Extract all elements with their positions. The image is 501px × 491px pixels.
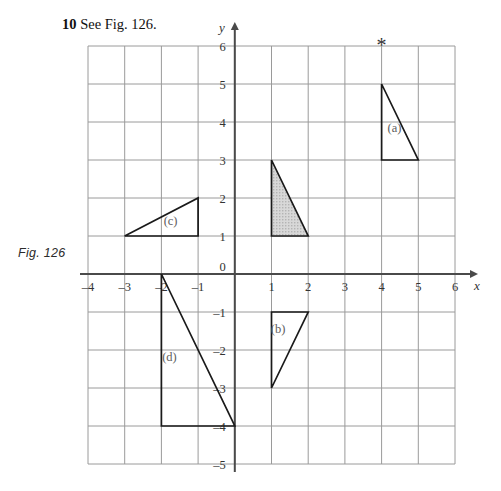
x-tick-label: 5 — [415, 280, 421, 294]
shape-label: (a) — [388, 121, 402, 135]
y-tick-label: 5 — [220, 78, 226, 92]
plot-markers: * — [377, 34, 387, 56]
axis-tick-labels: –4–3–2–10123456654321–1–2–3–4–5 — [81, 40, 458, 472]
y-tick-label: 4 — [220, 116, 227, 130]
x-tick-label: 1 — [268, 280, 274, 294]
figure-page: 10 See Fig. 126. Fig. 126 –4–3–2–1012345… — [0, 0, 501, 491]
x-tick-label: –4 — [81, 280, 95, 294]
y-tick-label: 6 — [220, 40, 226, 54]
y-tick-label: 1 — [220, 230, 226, 244]
shape-label: (d) — [162, 350, 177, 364]
asterisk-marker: * — [377, 34, 387, 56]
x-tick-label: –3 — [117, 280, 131, 294]
x-tick-label: 3 — [342, 280, 348, 294]
y-tick-label: –2 — [212, 344, 226, 358]
y-tick-label: 2 — [220, 192, 226, 206]
shape-label: (c) — [164, 214, 178, 228]
x-tick-label: 0 — [220, 260, 226, 274]
x-axis-arrowhead — [470, 270, 478, 278]
x-axis-label: x — [473, 278, 480, 293]
coordinate-plane: –4–3–2–10123456654321–1–2–3–4–5 (a)(b)(c… — [0, 0, 501, 491]
y-axis-arrowhead — [231, 22, 239, 30]
x-tick-label: 4 — [378, 280, 385, 294]
grid-lines — [88, 46, 455, 464]
y-tick-label: –5 — [212, 458, 226, 472]
y-axis-label: y — [217, 20, 225, 35]
y-tick-label: 3 — [220, 154, 226, 168]
x-tick-label: 2 — [305, 280, 311, 294]
shape-label: (b) — [271, 322, 286, 336]
y-tick-label: –1 — [212, 306, 226, 320]
x-tick-label: –1 — [191, 280, 205, 294]
x-tick-label: 6 — [452, 280, 458, 294]
